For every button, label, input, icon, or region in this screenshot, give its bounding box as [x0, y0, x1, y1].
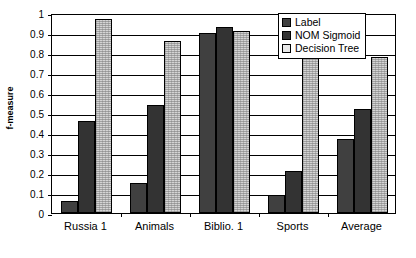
- y-tick-label: 0: [38, 209, 44, 220]
- legend-label: Label: [295, 17, 321, 28]
- y-tick-label: 0.6: [30, 89, 44, 100]
- x-tick-label: Russia 1: [64, 220, 107, 232]
- x-axis-category-labels: Russia 1AnimalsBiblio. 1SportsAverage: [51, 220, 396, 242]
- x-tick-mark: [121, 213, 122, 217]
- bar-group: [190, 15, 259, 213]
- legend-color-swatch: [282, 44, 291, 53]
- bar-group: [121, 15, 190, 213]
- bar: [285, 171, 302, 213]
- bar: [371, 57, 388, 213]
- y-tick-label: 0.8: [30, 49, 44, 60]
- x-tick-label: Average: [341, 220, 382, 232]
- legend-item: NOM Sigmoid: [282, 29, 360, 42]
- bar: [78, 121, 95, 213]
- y-tick-label: 0.2: [30, 169, 44, 180]
- legend-label: NOM Sigmoid: [295, 30, 360, 41]
- bar: [233, 31, 250, 213]
- legend-item: Label: [282, 16, 360, 29]
- chart-legend: LabelNOM SigmoidDecision Tree: [278, 13, 366, 59]
- bar: [95, 19, 112, 213]
- bar-chart: f-measure 00.10.20.30.40.50.60.70.80.91 …: [0, 0, 416, 258]
- x-tick-mark: [259, 213, 260, 217]
- y-axis-tick-labels: 00.10.20.30.40.50.60.70.80.91: [14, 14, 47, 214]
- bar: [61, 201, 78, 213]
- y-tick-label: 0.3: [30, 149, 44, 160]
- bar: [130, 183, 147, 213]
- y-tick-mark: [48, 215, 52, 216]
- x-tick-label: Sports: [277, 220, 309, 232]
- y-tick-label: 0.5: [30, 109, 44, 120]
- bar: [354, 109, 371, 213]
- bar-group: [52, 15, 121, 213]
- x-tick-mark: [190, 213, 191, 217]
- x-tick-label: Animals: [135, 220, 174, 232]
- legend-label: Decision Tree: [295, 43, 359, 54]
- bar: [164, 41, 181, 213]
- bar: [216, 27, 233, 213]
- y-tick-label: 0.1: [30, 189, 44, 200]
- bar: [302, 49, 319, 213]
- legend-item: Decision Tree: [282, 42, 360, 55]
- bar: [337, 139, 354, 213]
- y-tick-label: 0.4: [30, 129, 44, 140]
- bar: [199, 33, 216, 213]
- bar: [268, 195, 285, 213]
- y-tick-label: 0.7: [30, 69, 44, 80]
- x-tick-mark: [328, 213, 329, 217]
- x-tick-label: Biblio. 1: [204, 220, 243, 232]
- legend-color-swatch: [282, 31, 291, 40]
- legend-color-swatch: [282, 18, 291, 27]
- y-tick-label: 1: [38, 9, 44, 20]
- y-tick-label: 0.9: [30, 29, 44, 40]
- bar: [147, 105, 164, 213]
